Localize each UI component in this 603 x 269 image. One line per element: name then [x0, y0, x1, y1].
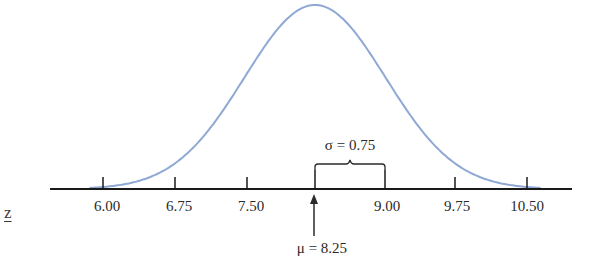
tick-label-6-75: 6.75 [166, 198, 192, 215]
tick-label-9-00: 9.00 [374, 198, 400, 215]
tick-label-6-00: 6.00 [94, 198, 120, 215]
tick-label-9-75: 9.75 [444, 198, 470, 215]
normal-curve-chart [0, 0, 603, 269]
x-ticks [103, 170, 527, 189]
mu-arrow-head [310, 194, 318, 204]
bell-curve [89, 5, 540, 188]
z-label: z [4, 203, 12, 223]
sigma-label: σ = 0.75 [325, 137, 375, 154]
tick-label-10-50: 10.50 [510, 198, 544, 215]
mu-label: μ = 8.25 [297, 240, 347, 257]
sigma-brace [315, 160, 385, 170]
tick-label-7-50: 7.50 [238, 198, 264, 215]
